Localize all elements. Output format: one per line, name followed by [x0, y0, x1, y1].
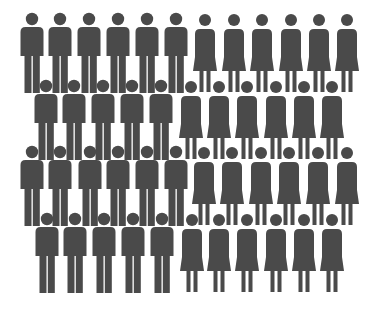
figures-group: [21, 13, 360, 293]
woman-figure-icon: [306, 147, 330, 225]
woman-figure-icon: [335, 147, 359, 225]
woman-figure-icon: [249, 147, 273, 225]
woman-figure-icon: [235, 81, 259, 159]
woman-figure-icon: [235, 214, 259, 292]
man-figure-icon: [136, 13, 159, 93]
woman-figure-icon: [292, 214, 316, 292]
man-figure-icon: [21, 13, 44, 93]
woman-figure-icon: [250, 14, 274, 92]
woman-figure-icon: [193, 14, 217, 92]
woman-figure-icon: [279, 14, 303, 92]
woman-figure-icon: [292, 81, 316, 159]
woman-figure-icon: [320, 214, 344, 292]
woman-figure-icon: [264, 214, 288, 292]
woman-figure-icon: [307, 14, 331, 92]
man-figure-icon: [49, 13, 72, 93]
man-figure-icon: [78, 13, 101, 93]
woman-figure-icon: [207, 214, 231, 292]
woman-figure-icon: [264, 81, 288, 159]
woman-figure-icon: [207, 81, 231, 159]
woman-figure-icon: [320, 81, 344, 159]
woman-figure-icon: [335, 14, 359, 92]
man-figure-icon: [165, 13, 188, 93]
woman-figure-icon: [222, 14, 246, 92]
man-figure-icon: [107, 13, 130, 93]
crowd-pictogram: [0, 0, 371, 309]
